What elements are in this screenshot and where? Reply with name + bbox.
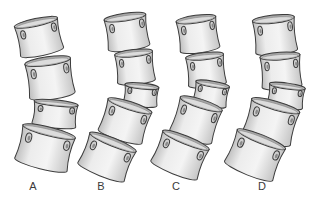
panel-a	[14, 14, 79, 175]
pedicle-hole-icon	[69, 108, 74, 115]
pedicle-hole-icon	[119, 59, 124, 67]
vertebra-body	[114, 47, 155, 86]
panel-label-b: B	[97, 180, 104, 192]
vertebra-body	[24, 54, 76, 103]
panel-label-c: C	[172, 180, 180, 192]
pedicle-hole-icon	[298, 90, 303, 96]
pedicle-hole-icon	[128, 87, 133, 93]
pedicle-hole-icon	[217, 58, 222, 66]
pedicle-hole-icon	[38, 105, 43, 112]
pedicle-hole-icon	[293, 59, 298, 68]
pedicle-hole-icon	[146, 55, 151, 63]
pedicle-hole-icon	[272, 87, 277, 93]
panel-label-a: A	[29, 180, 36, 192]
pedicle-hole-icon	[222, 89, 227, 96]
panel-label-d: D	[258, 180, 266, 192]
vertebra-body	[252, 13, 298, 57]
pedicle-hole-icon	[190, 62, 195, 70]
vertebra-body	[14, 14, 65, 60]
pedicle-hole-icon	[152, 89, 157, 95]
pedicle-hole-icon	[257, 26, 263, 35]
panel-d	[223, 13, 306, 185]
pedicle-hole-icon	[287, 22, 293, 31]
panels-group	[14, 10, 306, 185]
panel-b	[76, 10, 159, 185]
pedicle-hole-icon	[198, 85, 203, 92]
vertebrae-diagram	[0, 0, 317, 203]
vertebra-body	[176, 13, 221, 56]
vertebra-body	[104, 10, 151, 53]
pedicle-hole-icon	[265, 62, 270, 71]
panel-c	[149, 13, 230, 184]
pedicle-hole-icon	[139, 19, 145, 28]
pedicle-hole-icon	[109, 24, 115, 33]
